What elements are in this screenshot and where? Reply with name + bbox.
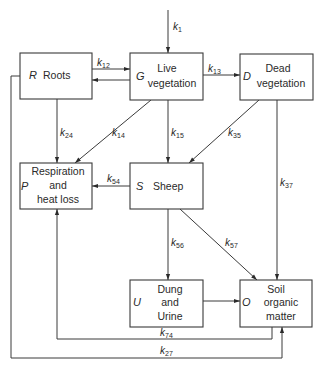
box-dead-line1: Dead <box>265 62 290 74</box>
rate-k1: k1 <box>173 21 182 33</box>
box-soil-line1: Soil <box>267 283 285 295</box>
box-live-letter: G <box>136 70 145 82</box>
box-live-line1: Live <box>157 62 176 74</box>
box-roots-letter: R <box>29 69 37 81</box>
rate-k27: k27 <box>160 345 173 357</box>
box-soil-letter: O <box>242 296 251 308</box>
rate-k15: k15 <box>171 127 184 139</box>
box-soil-line3: matter <box>266 310 296 322</box>
box-dung-urine: U Dung and Urine <box>130 280 203 327</box>
box-live-line2: vegetation <box>148 77 197 89</box>
box-dung-line2: and <box>161 296 179 308</box>
box-dung-letter: U <box>133 296 141 308</box>
rate-k35: k35 <box>228 127 241 139</box>
arrow-k35 <box>189 100 259 163</box>
box-dung-line3: Urine <box>157 310 182 322</box>
box-soil-organic-matter: O Soil organic matter <box>240 280 312 327</box>
rate-k24: k24 <box>60 127 73 139</box>
rate-k56: k56 <box>171 237 184 249</box>
box-sheep-letter: S <box>136 180 144 192</box>
box-roots: R Roots <box>20 53 92 99</box>
box-dung-line1: Dung <box>157 283 182 295</box>
box-roots-label: Roots <box>43 69 70 81</box>
rate-k13: k13 <box>208 63 221 75</box>
rate-k57: k57 <box>225 237 238 249</box>
box-dead-vegetation: D Dead vegetation <box>240 54 313 100</box>
rate-k54: k54 <box>107 173 120 185</box>
box-respiration: P Respiration and heat loss <box>20 163 92 209</box>
box-live-vegetation: G Live vegetation <box>130 53 203 100</box>
compartment-flow-diagram: R Roots G Live vegetation D Dead vegetat… <box>0 0 326 371</box>
box-dead-letter: D <box>243 70 251 82</box>
box-resp-line1: Respiration <box>31 165 84 177</box>
box-sheep: S Sheep <box>130 163 203 209</box>
box-resp-line3: heat loss <box>37 193 79 205</box>
box-dead-line2: vegetation <box>257 77 306 89</box>
box-soil-line2: organic <box>264 296 298 308</box>
rate-k37: k37 <box>280 177 293 189</box>
box-resp-letter: P <box>21 180 29 192</box>
box-sheep-label: Sheep <box>153 180 184 192</box>
rate-k74: k74 <box>160 327 173 339</box>
arrow-k57 <box>180 209 257 280</box>
rate-k12: k12 <box>97 57 110 69</box>
box-resp-line2: and <box>49 179 67 191</box>
rate-k14: k14 <box>112 127 125 139</box>
